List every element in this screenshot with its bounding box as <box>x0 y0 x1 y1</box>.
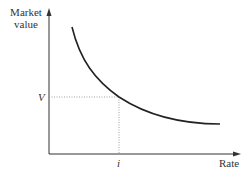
y-axis-label: Market value <box>4 6 48 30</box>
x-axis-arrow-icon <box>233 152 241 157</box>
x-axis-label: Rate <box>219 157 239 169</box>
y-axis-label-line1: Market <box>4 6 48 18</box>
x-tick-i: i <box>117 157 120 169</box>
market-value-curve <box>72 27 220 124</box>
y-axis-label-line2: value <box>4 18 48 30</box>
y-tick-v: V <box>38 91 45 103</box>
